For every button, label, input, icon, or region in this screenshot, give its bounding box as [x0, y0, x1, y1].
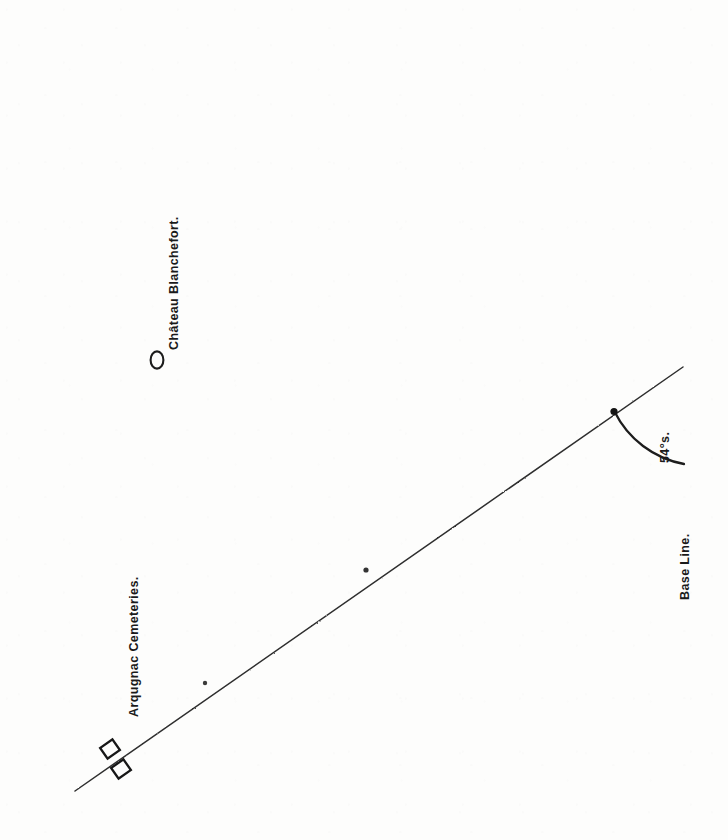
survey-diagram-page: Château Blanchefort. Arqugnac Cemeteries…: [0, 0, 728, 840]
circle-marker: [151, 351, 164, 368]
angle-arc-vertex-dot: [610, 408, 617, 415]
diagonal-bearing-line: [75, 367, 683, 791]
label-base-line: Base Line.: [678, 533, 692, 600]
label-chateau-blanchefort: Château Blanchefort.: [167, 216, 181, 350]
diagram-canvas: [0, 0, 728, 840]
rect-marker-lower: [111, 759, 131, 778]
diagonal-tick-lower: [203, 681, 207, 685]
rect-marker-upper: [100, 739, 120, 758]
cemetery-symbol-group: [100, 739, 131, 778]
label-angle-value: 54°s.: [658, 432, 672, 463]
label-arqugnac-cemeteries: Arqugnac Cemeteries.: [127, 576, 141, 717]
diagonal-tick-mid: [363, 567, 368, 572]
angle-arc: [615, 412, 685, 465]
